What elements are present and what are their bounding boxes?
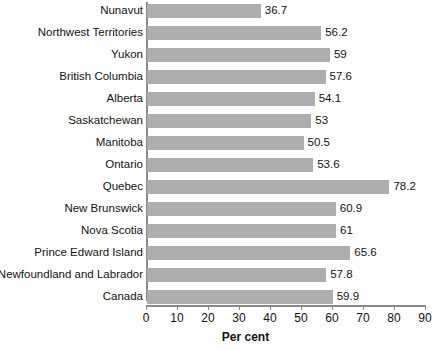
bar-value-label: 65.6: [354, 242, 376, 264]
x-axis-tick-label: 20: [201, 311, 214, 325]
bar: [147, 268, 326, 282]
x-axis-tick-label: 90: [418, 311, 431, 325]
bar: [147, 246, 350, 260]
bar-row: Saskatchewan53: [0, 110, 435, 132]
plot-area: Nunavut36.7Northwest Territories56.2Yuko…: [0, 0, 435, 300]
category-label: Nova Scotia: [81, 220, 143, 242]
bar-row: Manitoba50.5: [0, 132, 435, 154]
category-label: Northwest Territories: [38, 22, 143, 44]
bar: [147, 114, 311, 128]
bar-value-label: 59: [334, 44, 347, 66]
category-label: Ontario: [105, 154, 143, 176]
bar-row: Newfoundland and Labrador57.8: [0, 264, 435, 286]
x-axis-tick-label: 0: [143, 311, 150, 325]
x-axis-tick-label: 50: [294, 311, 307, 325]
category-label: British Columbia: [59, 66, 143, 88]
bar-value-label: 57.8: [330, 264, 352, 286]
bar-value-label: 56.2: [325, 22, 347, 44]
bar-row: British Columbia57.6: [0, 66, 435, 88]
x-axis-tick: [425, 305, 426, 310]
x-axis-tick: [394, 305, 395, 310]
bar-value-label: 60.9: [340, 198, 362, 220]
category-label: Alberta: [107, 88, 143, 110]
bar: [147, 92, 315, 106]
x-axis-tick: [363, 305, 364, 310]
bar: [147, 202, 336, 216]
bar: [147, 180, 389, 194]
x-axis-tick-label: 40: [263, 311, 276, 325]
x-axis-tick: [177, 305, 178, 310]
bar: [147, 4, 261, 18]
x-axis-tick-label: 80: [387, 311, 400, 325]
category-label: Manitoba: [96, 132, 143, 154]
bar-value-label: 53: [315, 110, 328, 132]
x-axis-tick: [270, 305, 271, 310]
bar-row: Yukon59: [0, 44, 435, 66]
x-axis-title-text: Per cent: [166, 330, 269, 344]
x-axis-tick-label: 60: [325, 311, 338, 325]
category-label: New Brunswick: [64, 198, 143, 220]
x-axis-tick: [208, 305, 209, 310]
category-label: Yukon: [111, 44, 143, 66]
x-axis-tick-label: 10: [170, 311, 183, 325]
bar-rows: Nunavut36.7Northwest Territories56.2Yuko…: [0, 0, 435, 308]
category-label: Quebec: [103, 176, 143, 198]
bar-row: Quebec78.2: [0, 176, 435, 198]
x-axis-tick: [146, 305, 147, 310]
x-axis-tick: [301, 305, 302, 310]
bar: [147, 136, 304, 150]
category-label: Canada: [103, 286, 143, 308]
bar-row: Alberta54.1: [0, 88, 435, 110]
bar: [147, 48, 330, 62]
bar: [147, 158, 313, 172]
x-axis-tick: [332, 305, 333, 310]
bar-value-label: 36.7: [265, 0, 287, 22]
bar: [147, 290, 333, 304]
x-axis-line: [146, 305, 426, 307]
bar-row: New Brunswick60.9: [0, 198, 435, 220]
bar-value-label: 78.2: [393, 176, 415, 198]
bar: [147, 70, 326, 84]
bar-value-label: 54.1: [319, 88, 341, 110]
bar-chart: Nunavut36.7Northwest Territories56.2Yuko…: [0, 0, 435, 351]
x-axis-tick-label: 30: [232, 311, 245, 325]
x-axis-tick-label: 70: [356, 311, 369, 325]
category-label: Newfoundland and Labrador: [0, 264, 143, 286]
bar-row: Nunavut36.7: [0, 0, 435, 22]
category-label: Nunavut: [100, 0, 143, 22]
bar-row: Northwest Territories56.2: [0, 22, 435, 44]
bar-value-label: 50.5: [308, 132, 330, 154]
bar-row: Nova Scotia61: [0, 220, 435, 242]
x-axis-title: Per cent: [0, 330, 435, 344]
bar: [147, 224, 336, 238]
bar: [147, 26, 321, 40]
x-axis-tick: [239, 305, 240, 310]
bar-row: Prince Edward Island65.6: [0, 242, 435, 264]
category-label: Saskatchewan: [68, 110, 143, 132]
category-label: Prince Edward Island: [34, 242, 143, 264]
bar-value-label: 57.6: [330, 66, 352, 88]
bar-value-label: 61: [340, 220, 353, 242]
bar-value-label: 53.6: [317, 154, 339, 176]
bar-row: Ontario53.6: [0, 154, 435, 176]
